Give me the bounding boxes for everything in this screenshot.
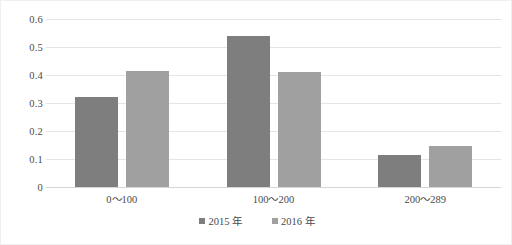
y-axis-tick-label: 0.1	[3, 154, 43, 165]
chart-legend: 2015 年2016 年	[1, 213, 512, 228]
y-axis-tick-label: 0.2	[3, 126, 43, 137]
y-axis-tick-label: 0.4	[3, 70, 43, 81]
bar-group	[227, 19, 321, 187]
x-axis-tick-label: 100～200	[198, 191, 350, 206]
y-axis: 0.60.50.40.30.20.10	[1, 19, 43, 187]
x-axis-tick-label: 0～100	[46, 191, 198, 206]
bar-chart-figure: 0.60.50.40.30.20.10 0～100100～200200～289 …	[0, 0, 512, 245]
bar[interactable]	[429, 146, 472, 187]
y-axis-tick-label: 0.6	[3, 14, 43, 25]
y-axis-tick-label: 0.5	[3, 42, 43, 53]
axis-baseline	[46, 187, 501, 188]
legend-item[interactable]: 2016 年	[272, 213, 315, 228]
legend-item[interactable]: 2015 年	[199, 213, 242, 228]
legend-item-label: 2015 年	[208, 213, 242, 228]
x-axis: 0～100100～200200～289	[46, 191, 501, 207]
bar-group	[378, 19, 472, 187]
bars-layer	[46, 19, 501, 187]
square-marker-icon	[199, 218, 205, 224]
y-axis-tick-label: 0	[3, 182, 43, 193]
square-marker-icon	[272, 218, 278, 224]
bar[interactable]	[278, 72, 321, 187]
bar[interactable]	[126, 71, 169, 187]
legend-item-label: 2016 年	[281, 213, 315, 228]
bar[interactable]	[227, 36, 270, 187]
y-axis-tick-label: 0.3	[3, 98, 43, 109]
x-axis-tick-label: 200～289	[349, 191, 501, 206]
bar[interactable]	[378, 155, 421, 187]
bar-group	[75, 19, 169, 187]
bar[interactable]	[75, 97, 118, 187]
